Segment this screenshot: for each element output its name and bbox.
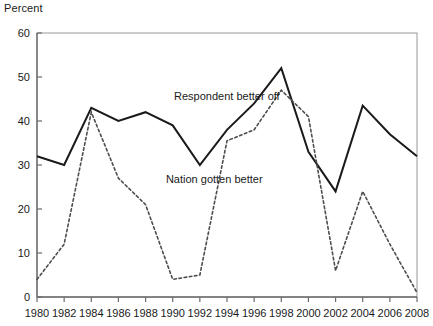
series-label-nation-gotten-better: Nation gotten better [166,173,263,185]
x-axis-tick-2008: 2008 [400,307,433,319]
y-axis-tick-30: 30 [4,159,30,171]
y-axis-tick-50: 50 [4,71,30,83]
y-axis-tick-60: 60 [4,27,30,39]
series-label-respondent-better-off: Respondent better off [174,90,280,102]
y-axis-tick-10: 10 [4,247,30,259]
y-axis-tick-0: 0 [4,291,30,303]
y-axis-tick-40: 40 [4,115,30,127]
plot-area [0,0,433,326]
percent-line-chart: Percent 0102030405060 198019821984198619… [0,0,433,326]
y-axis-tick-20: 20 [4,203,30,215]
